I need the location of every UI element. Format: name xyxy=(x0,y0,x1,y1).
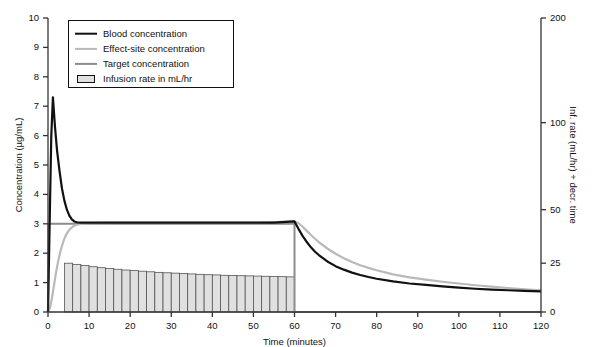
y-axis-tick-label: 1 xyxy=(34,278,39,288)
legend-label-infusion-rate: Infusion rate in mL/hr xyxy=(103,74,192,84)
x-axis-tick-label: 80 xyxy=(371,321,382,331)
infusion-bar xyxy=(278,277,286,312)
legend-item-effect-site: Effect-site concentration xyxy=(75,41,227,56)
x-axis-tick-label: 100 xyxy=(451,321,467,331)
infusion-bar xyxy=(122,270,130,312)
x-axis-tick-label: 0 xyxy=(45,321,50,331)
x-axis-tick-label: 40 xyxy=(207,321,218,331)
infusion-bar xyxy=(188,274,196,312)
chart-legend: Blood concentration Effect-site concentr… xyxy=(68,20,234,88)
infusion-bar xyxy=(204,275,212,312)
y-axis-tick-label: 8 xyxy=(34,72,39,82)
y-axis-tick-label: 3 xyxy=(34,219,39,229)
x-axis-tick-label: 110 xyxy=(492,321,507,331)
legend-item-infusion-rate: Infusion rate in mL/hr xyxy=(75,71,227,86)
x-axis-tick-label: 50 xyxy=(248,321,259,331)
legend-swatch-infusion-rate xyxy=(75,73,97,85)
x-axis-tick-label: 90 xyxy=(412,321,423,331)
infusion-rate-bars xyxy=(64,263,294,312)
x-axis-tick-label: 60 xyxy=(289,321,300,331)
infusion-bar xyxy=(64,263,72,312)
infusion-bar xyxy=(179,274,187,312)
legend-item-blood: Blood concentration xyxy=(75,26,227,41)
infusion-bar xyxy=(130,271,138,312)
infusion-bar xyxy=(106,268,114,312)
infusion-bar xyxy=(253,276,261,312)
y-axis-tick-label: 6 xyxy=(34,131,39,141)
legend-swatch-blood xyxy=(75,28,97,40)
x-axis-tick-label: 20 xyxy=(125,321,136,331)
infusion-bar xyxy=(212,275,220,312)
y-axis-tick-label: 4 xyxy=(34,190,39,200)
infusion-bar xyxy=(270,276,278,312)
infusion-bar xyxy=(89,267,97,312)
infusion-bar xyxy=(155,272,163,312)
legend-label-blood: Blood concentration xyxy=(103,29,187,39)
y2-axis-tick-label: 200 xyxy=(550,13,566,23)
y-axis-tick-label: 0 xyxy=(34,307,39,317)
y2-axis-tick-label: 100 xyxy=(550,118,566,128)
infusion-bar xyxy=(245,276,253,312)
infusion-bar xyxy=(196,274,204,312)
y-axis-title: Concentration (µg/mL) xyxy=(14,118,24,213)
y2-axis-tick-label: 25 xyxy=(550,258,561,268)
y2-axis-tick-label: 50 xyxy=(550,205,561,215)
infusion-bar xyxy=(81,266,89,312)
infusion-bar xyxy=(147,272,155,312)
y2-axis-title: Inf. rate (mL/hr) + decr. time xyxy=(569,106,579,223)
y2-axis-tick-label: 0 xyxy=(550,307,555,317)
infusion-bar xyxy=(262,276,270,312)
x-axis-title: Time (minutes) xyxy=(263,337,326,347)
legend-swatch-target xyxy=(75,58,97,70)
legend-label-effect-site: Effect-site concentration xyxy=(103,44,205,54)
y-axis-tick-label: 2 xyxy=(34,248,39,258)
legend-label-target: Target concentration xyxy=(103,59,189,69)
legend-swatch-effect-site xyxy=(75,43,97,55)
x-axis-tick-label: 10 xyxy=(84,321,95,331)
infusion-bar xyxy=(171,273,179,312)
infusion-bar xyxy=(237,276,245,312)
y-axis-tick-label: 10 xyxy=(28,13,39,23)
infusion-bar xyxy=(97,268,105,312)
infusion-bar xyxy=(163,273,171,312)
infusion-bar xyxy=(114,269,122,312)
y-axis-tick-label: 5 xyxy=(34,160,39,170)
infusion-bar xyxy=(229,275,237,312)
x-axis-tick-label: 120 xyxy=(533,321,549,331)
x-axis-tick-label: 70 xyxy=(330,321,341,331)
infusion-bar xyxy=(138,271,146,312)
legend-item-target: Target concentration xyxy=(75,56,227,71)
infusion-bar xyxy=(286,277,294,312)
x-axis-tick-label: 30 xyxy=(166,321,177,331)
infusion-bar xyxy=(73,264,81,312)
infusion-bar xyxy=(221,275,229,312)
y-axis-tick-label: 7 xyxy=(34,101,39,111)
y-axis-tick-label: 9 xyxy=(34,43,39,53)
